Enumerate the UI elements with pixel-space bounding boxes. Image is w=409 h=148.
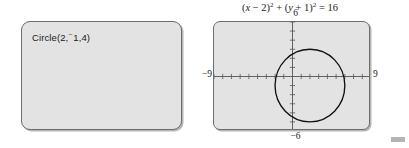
axis-label-y-max: 6: [217, 8, 374, 18]
plotted-circle: [275, 49, 345, 122]
axis-ticks-group: [214, 22, 370, 130]
axis-label-x-max: 9: [373, 69, 389, 79]
axis-label-y-min: −6: [217, 131, 374, 141]
command-prefix: Circle(2,: [32, 32, 68, 43]
graph-plot-area: [214, 22, 370, 130]
axis-label-x-min: −9: [196, 69, 212, 79]
page-corner-artifact: [391, 137, 405, 142]
graph-screen[interactable]: [213, 21, 370, 130]
axes-group: [214, 22, 370, 130]
calculator-command-panel[interactable]: Circle(2,⁻1,4): [21, 21, 182, 130]
circle-curve-group: [275, 49, 345, 122]
calculator-command-text: Circle(2,⁻1,4): [32, 31, 90, 43]
command-suffix: 1,4): [73, 32, 90, 43]
